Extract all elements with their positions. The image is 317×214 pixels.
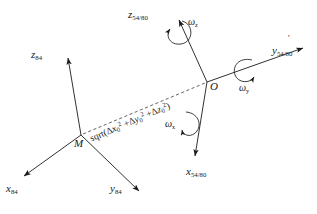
axis-label-y5480: y54/80	[272, 44, 292, 57]
rotation-label-omega-z: ωz	[188, 16, 198, 28]
point-label-O: O	[210, 80, 218, 92]
point-label-M: M	[74, 137, 83, 149]
axis-label-x5480: x54/80	[186, 165, 206, 178]
axis-x5480-line	[195, 82, 207, 156]
axis-x84-line	[24, 135, 81, 176]
prime-tick-icon: '	[288, 33, 290, 43]
rotation-label-omega-y: ωy	[239, 82, 249, 94]
axis-label-z5480: z54/80	[128, 8, 148, 21]
omega-y-arc	[234, 59, 254, 81]
coordinate-transformation-diagram: z84 x84 y84 z54/80 x54/80 y54/80 ' M O ω…	[0, 0, 317, 214]
axis-z5480-line	[179, 20, 207, 82]
axis-z84-line	[68, 58, 81, 135]
axis-label-z84: z84	[31, 48, 42, 61]
axis-label-y84: y84	[110, 182, 122, 195]
omega-x-arc	[182, 112, 199, 135]
axis-label-x84: x84	[6, 182, 18, 195]
rotation-label-omega-x: ωx	[165, 118, 175, 130]
